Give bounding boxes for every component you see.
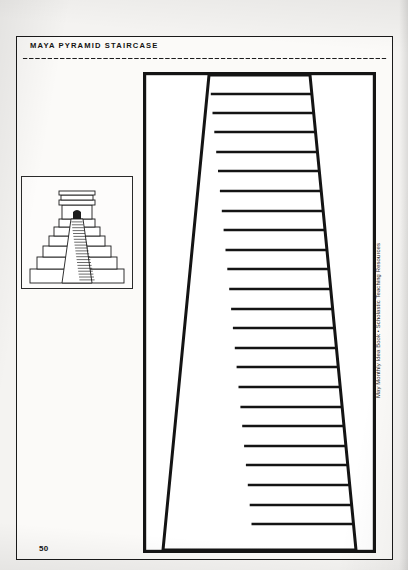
page-number: 50 [39,544,49,553]
scanned-worksheet-page: MAYA PYRAMID STAIRCASE [0,0,408,570]
dotted-separator-rule [22,57,388,60]
page-title: MAYA PYRAMID STAIRCASE [30,41,159,50]
maya-pyramid-illustration [21,176,133,289]
staircase-template-panel [143,72,376,553]
temple-doorway [73,210,81,219]
staircase-drawing [143,72,376,553]
publisher-credit: May Monthly Idea Book • Scholastic Teach… [375,248,381,398]
scan-spine-shadow [399,0,408,570]
